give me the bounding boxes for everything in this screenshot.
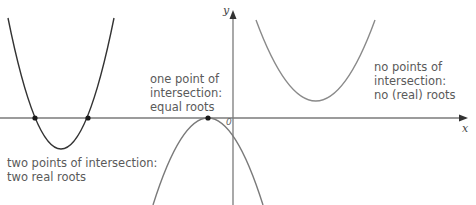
parabola-no-roots xyxy=(256,20,375,101)
parabola-two-roots xyxy=(8,18,114,149)
no-roots-label-line: no (real) roots xyxy=(374,88,455,102)
y-axis-label: y xyxy=(223,4,229,17)
y-axis-arrow-icon xyxy=(230,10,237,19)
equal-roots-label-line: one point of xyxy=(150,72,222,86)
equal-roots-label: one point of intersection: equal roots xyxy=(150,72,222,114)
parabola-equal-roots xyxy=(153,118,263,205)
root-point-1 xyxy=(32,115,37,120)
x-axis-arrow-icon xyxy=(459,115,468,122)
no-roots-label-line: no points of xyxy=(374,60,455,74)
two-roots-label: two points of intersection: two real roo… xyxy=(7,156,157,184)
origin-label: 0 xyxy=(226,117,232,127)
no-roots-label-line: intersection: xyxy=(374,74,455,88)
x-axis-label: x xyxy=(462,122,468,135)
root-point-2 xyxy=(85,115,90,120)
no-roots-label: no points of intersection: no (real) roo… xyxy=(374,60,455,102)
touch-point xyxy=(205,115,210,120)
equal-roots-label-line: intersection: xyxy=(150,86,222,100)
two-roots-label-line: two real roots xyxy=(7,170,157,184)
two-roots-label-line: two points of intersection: xyxy=(7,156,157,170)
equal-roots-label-line: equal roots xyxy=(150,100,222,114)
